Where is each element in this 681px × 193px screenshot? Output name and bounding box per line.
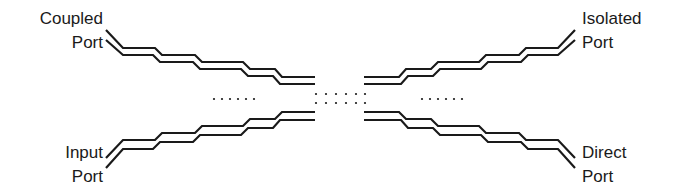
isolated-port-line	[364, 30, 575, 84]
direct-port-label: Direct Port	[582, 143, 627, 186]
ellipsis-center	[315, 93, 366, 104]
ellipsis-right	[421, 98, 463, 100]
input-port-label-line2: Port	[72, 167, 103, 186]
direct-port-line	[364, 112, 575, 168]
input-port-label-line1: Input	[65, 143, 103, 162]
isolated-port-label-line2: Port	[582, 33, 613, 52]
coupled-port-label-line1: Coupled	[40, 9, 103, 28]
coupled-port-label-line2: Port	[72, 33, 103, 52]
isolated-port-label-line1: Isolated	[582, 9, 642, 28]
direct-port-label-line2: Port	[582, 167, 613, 186]
input-port-label: Input Port	[65, 143, 103, 186]
input-port-line	[106, 112, 315, 168]
coupled-port-label: Coupled Port	[40, 9, 104, 52]
direct-port-label-line1: Direct	[582, 143, 627, 162]
coupled-port-line	[106, 30, 315, 84]
isolated-port-label: Isolated Port	[582, 9, 642, 52]
ellipsis-left	[213, 98, 255, 100]
coupler-diagram: Coupled Port Isolated Port Input Port Di…	[0, 0, 681, 193]
